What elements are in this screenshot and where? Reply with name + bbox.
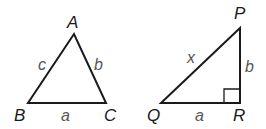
triangle-abc: A B C c b a	[14, 13, 117, 125]
vertex-label-c: C	[104, 106, 117, 125]
side-label-b: b	[94, 56, 103, 73]
triangle-pqr-shape	[161, 28, 240, 103]
side-label-b: b	[245, 58, 254, 75]
vertex-label-r: R	[233, 106, 245, 125]
side-label-c: c	[38, 56, 46, 73]
diagram-canvas: A B C c b a P Q R x b a	[0, 0, 266, 129]
vertex-label-b: B	[14, 106, 25, 125]
vertex-label-a: A	[66, 13, 78, 32]
vertex-label-p: P	[234, 4, 246, 23]
vertex-label-q: Q	[147, 106, 160, 125]
side-label-a: a	[61, 107, 70, 124]
triangle-pqr: P Q R x b a	[147, 4, 254, 125]
side-label-x: x	[186, 49, 196, 66]
side-label-a: a	[195, 107, 204, 124]
right-angle-marker	[224, 89, 240, 103]
